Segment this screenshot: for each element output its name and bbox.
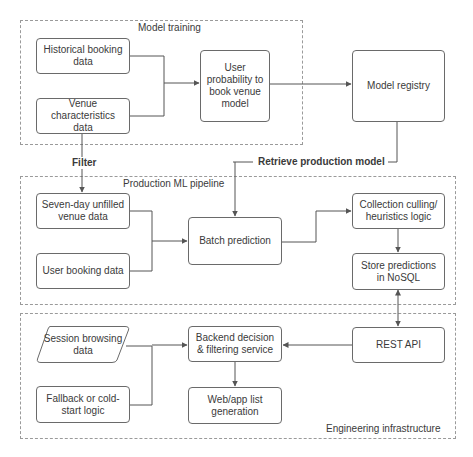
node-label: Batch prediction	[199, 235, 271, 247]
node-backend-decision-filtering[interactable]: Backend decision & filtering service	[188, 326, 282, 362]
node-fallback-cold-start-logic[interactable]: Fallback or cold-start logic	[36, 386, 130, 423]
node-label: Historical booking data	[40, 44, 126, 68]
node-label: REST API	[376, 339, 421, 351]
node-seven-day-unfilled-venue-data[interactable]: Seven-day unfilled venue data	[36, 193, 130, 229]
node-label: Store predictions in NoSQL	[356, 260, 441, 284]
node-label: Web/app list generation	[192, 394, 278, 418]
node-label: Collection culling/ heuristics logic	[356, 199, 441, 223]
node-label: User booking data	[42, 265, 123, 277]
node-venue-characteristics-data[interactable]: Venue characteristics data	[36, 98, 130, 134]
node-batch-prediction[interactable]: Batch prediction	[188, 217, 282, 265]
node-collection-culling-heuristics[interactable]: Collection culling/ heuristics logic	[352, 193, 445, 229]
edge-label-filter: Filter	[69, 157, 99, 168]
edge-label-retrieve-production-model: Retrieve production model	[255, 156, 388, 167]
node-historical-booking-data[interactable]: Historical booking data	[36, 38, 130, 74]
node-label: Fallback or cold-start logic	[40, 393, 126, 417]
node-user-booking-data[interactable]: User booking data	[36, 253, 130, 289]
node-label: Model registry	[367, 80, 430, 92]
node-label: Session browsing data	[36, 333, 130, 357]
node-store-predictions-nosql[interactable]: Store predictions in NoSQL	[352, 253, 445, 290]
node-label: Backend decision & filtering service	[192, 332, 278, 356]
node-web-app-list-generation[interactable]: Web/app list generation	[188, 387, 282, 424]
node-model-registry[interactable]: Model registry	[352, 50, 445, 122]
node-label: Venue characteristics data	[40, 98, 126, 134]
node-session-browsing-data[interactable]: Session browsing data	[36, 326, 130, 363]
node-label: Seven-day unfilled venue data	[40, 199, 126, 223]
node-label: User probability to book venue model	[204, 62, 266, 110]
node-user-probability-model[interactable]: User probability to book venue model	[200, 50, 270, 122]
node-rest-api[interactable]: REST API	[352, 327, 445, 363]
